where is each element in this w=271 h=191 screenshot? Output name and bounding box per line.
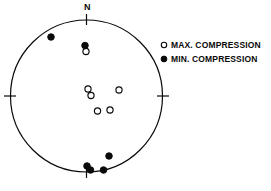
data-point — [116, 87, 122, 93]
data-point — [88, 92, 94, 98]
stereonet-figure: N MAX. COMPRESSION MIN. COMPRESSION — [0, 0, 271, 191]
data-point — [100, 167, 107, 174]
data-point — [83, 48, 89, 54]
data-point — [94, 108, 100, 114]
data-point — [87, 167, 94, 174]
open-circle-icon — [160, 41, 168, 49]
plot-background — [0, 0, 271, 191]
data-point — [85, 86, 91, 92]
legend-item-max-compression: MAX. COMPRESSION — [160, 38, 270, 51]
legend: MAX. COMPRESSION MIN. COMPRESSION — [160, 38, 270, 66]
legend-label-max-compression: MAX. COMPRESSION — [171, 40, 261, 50]
north-axis-label: N — [84, 2, 91, 12]
data-point — [48, 34, 55, 41]
legend-label-min-compression: MIN. COMPRESSION — [171, 54, 257, 64]
data-point — [82, 42, 89, 49]
filled-circle-icon — [160, 55, 168, 63]
data-point — [107, 107, 113, 113]
stereonet-plot-area — [0, 0, 271, 191]
data-point — [106, 153, 113, 160]
legend-item-min-compression: MIN. COMPRESSION — [160, 52, 270, 65]
